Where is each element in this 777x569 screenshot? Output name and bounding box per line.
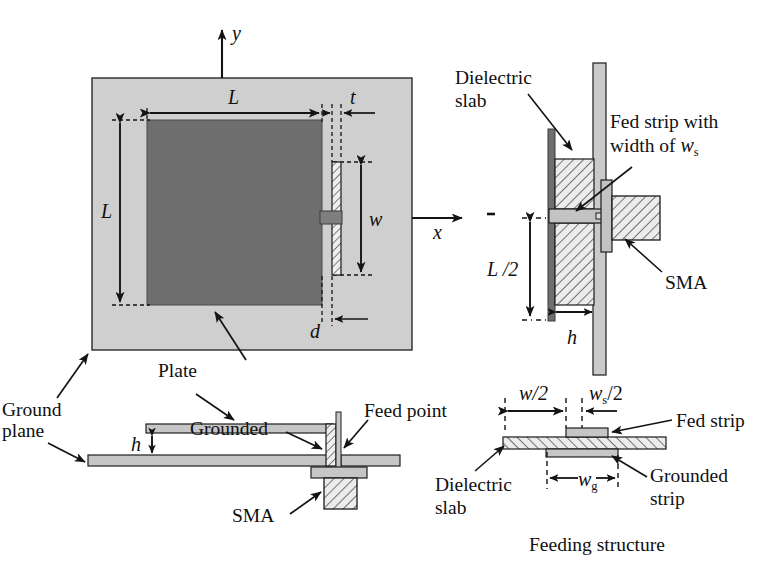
sma-bottom-leader xyxy=(290,492,321,514)
dielectric-slab-label-line1: Dielectric xyxy=(455,67,532,89)
feed-point-label: Feed point xyxy=(364,400,447,422)
ground-plane-leader-1 xyxy=(57,354,88,398)
dielectric-slab-lower xyxy=(555,223,594,305)
sma-right-label: SMA xyxy=(665,272,707,294)
fed-strip-width-label-line1: Fed strip with xyxy=(610,111,718,133)
grounded-label: Grounded xyxy=(190,418,268,440)
dielectric-slab-label-line2: slab xyxy=(455,90,486,112)
fed-strip-width-symbol: w xyxy=(680,134,693,156)
sma-body-bottom xyxy=(324,478,357,509)
plate-rect xyxy=(147,120,322,305)
axis-x-label: x xyxy=(433,221,442,243)
sma-body-right xyxy=(612,196,660,240)
dim-ws-half-label: ws/2 xyxy=(589,382,623,407)
fs-dielectric-leader xyxy=(475,446,504,471)
plate-label: Plate xyxy=(158,360,197,382)
dim-L-top-label: L xyxy=(228,86,239,108)
dim-ws-half-suffix: /2 xyxy=(607,382,623,404)
axis-y-label: y xyxy=(232,22,241,44)
ground-plane-bar xyxy=(88,455,333,466)
feeding-structure-caption: Feeding structure xyxy=(529,534,665,556)
fs-grounded-strip-label-line1: Grounded xyxy=(650,465,728,487)
fs-grounded-strip xyxy=(546,449,618,457)
sma-bottom-label: SMA xyxy=(232,505,274,527)
dim-w-label: w xyxy=(369,208,382,230)
fs-fed-strip xyxy=(566,428,608,437)
sma-right-leader xyxy=(625,239,662,272)
fs-fed-strip-leader xyxy=(612,420,672,432)
fs-dielectric-slab xyxy=(503,437,666,449)
fed-strip-width-text: width of xyxy=(610,135,680,156)
dim-wg-subscript: g xyxy=(591,479,597,493)
grounded-leader xyxy=(286,432,322,449)
dim-w-half-label: w/2 xyxy=(519,382,548,404)
dim-h-bottom-label: h xyxy=(131,433,141,455)
dim-L-half-label: L /2 xyxy=(487,258,518,280)
ground-plane-label-line1: Ground xyxy=(2,399,62,421)
dim-ws-half-symbol: w xyxy=(589,382,602,404)
fs-grounded-strip-leader xyxy=(612,456,647,477)
figure-canvas: y x L L t w d Ground plane Plate Dielect… xyxy=(0,0,777,569)
fs-dielectric-slab-label-line2: slab xyxy=(435,497,466,519)
fs-grounded-strip-label-line2: strip xyxy=(650,488,685,510)
plate-leader-bottom xyxy=(196,394,234,420)
dim-wg-label: wg xyxy=(578,468,598,493)
fs-dielectric-slab-label-line1: Dielectric xyxy=(435,474,512,496)
dim-wg-symbol: w xyxy=(578,468,591,490)
feed-point-block xyxy=(320,211,342,224)
sma-flange-bottom xyxy=(311,467,367,478)
ground-plane-bar-right xyxy=(341,455,400,466)
dim-t-label: t xyxy=(350,86,356,108)
dim-h-right-label: h xyxy=(567,326,577,348)
fed-strip-width-subscript: s xyxy=(694,145,699,159)
dim-d-label: d xyxy=(310,320,320,342)
fed-strip-bar xyxy=(549,209,602,223)
dim-L-left-label: L xyxy=(101,200,112,222)
grounded-strip-vertical xyxy=(326,424,336,466)
front-view xyxy=(48,30,462,462)
ground-plane-leader-2 xyxy=(48,443,85,462)
fed-strip-vertical xyxy=(336,412,341,468)
plate-edge-bar xyxy=(548,129,555,321)
ground-plane-label-line2: plane xyxy=(2,420,44,442)
fed-strip-width-label-line2: width of ws xyxy=(610,134,699,159)
fs-fed-strip-label: Fed strip xyxy=(676,410,745,432)
feed-point-leader xyxy=(344,420,368,448)
